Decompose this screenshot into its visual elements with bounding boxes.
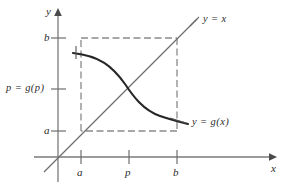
x-axis-label: x — [271, 163, 276, 174]
figure-canvas — [0, 0, 287, 189]
x-tick-label-b: b — [173, 167, 179, 178]
curve-label: y = g(x) — [192, 117, 229, 128]
x-axis-arrow-icon — [269, 153, 277, 161]
fixed-point-figure: y x a p b b p = g(p) a y = x y = g(x) — [0, 0, 287, 189]
y-axis-arrow-icon — [54, 8, 62, 16]
identity-label-leader — [190, 17, 199, 26]
y-tick-label-b: b — [44, 32, 50, 43]
curve-g-of-x — [73, 53, 188, 124]
x-axis — [34, 153, 277, 161]
y-tick-label-fixed-point: p = g(p) — [6, 83, 44, 94]
y-tick-label-a: a — [44, 125, 50, 136]
x-tick-label-a: a — [77, 167, 83, 178]
identity-line-label: y = x — [203, 14, 227, 25]
x-tick-label-p: p — [125, 167, 131, 178]
y-axis-label: y — [46, 6, 51, 17]
identity-line — [44, 19, 197, 172]
